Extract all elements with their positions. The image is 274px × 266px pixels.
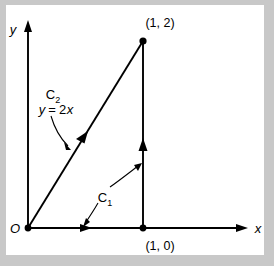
curve-c1-upper-leader-arrowhead-icon (134, 163, 142, 171)
curve-c2-label-main: C (46, 87, 55, 102)
point-1-2-label: (1, 2) (145, 16, 174, 30)
figure-frame: y x O (1, 2) (1, 0) C2 y=2x C1 (0, 0, 274, 266)
point-1-0-label: (1, 0) (145, 239, 174, 253)
coordinate-diagram: y x O (1, 2) (1, 0) C2 y=2x C1 (0, 0, 274, 266)
curve-c1-lower-leader-arrowhead-icon (83, 218, 90, 227)
curve-c2-equation-label: y=2x (38, 102, 74, 117)
equation-lhs: y (38, 102, 47, 117)
curve-c1-label-subscript: 1 (107, 198, 112, 208)
x-axis-label: x (254, 221, 262, 236)
y-axis-label: y (9, 22, 18, 37)
equation-operator: = (48, 102, 56, 117)
point-1-2-dot (139, 37, 146, 44)
y-axis-arrowhead-icon (24, 20, 32, 32)
x-axis-arrowhead-icon (236, 224, 248, 232)
point-origin-dot (25, 225, 32, 232)
curve-c2-leader-line (51, 116, 68, 146)
curve-c1-label: C1 (98, 190, 112, 208)
equation-variable: x (66, 102, 74, 117)
curve-c1-lower-leader-line (86, 203, 98, 222)
curve-c1-vertical-arrowhead-icon (139, 138, 148, 151)
curve-c2-arrowhead-icon (76, 131, 88, 144)
curve-c1-horizontal-arrowhead-icon (80, 224, 92, 232)
curve-c1-label-main: C (98, 190, 107, 205)
curve-c1-upper-leader-line (110, 166, 138, 187)
origin-label: O (10, 221, 20, 236)
point-1-0-dot (140, 225, 147, 232)
equation-coefficient: 2 (59, 102, 66, 117)
